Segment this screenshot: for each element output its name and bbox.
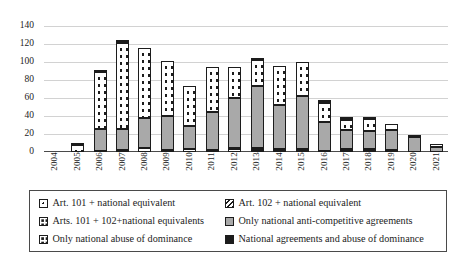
bar-segment xyxy=(116,40,129,43)
legend-item[interactable]: Arts. 101 + 102+national equivalents xyxy=(39,213,204,230)
y-tick-label: 120 xyxy=(20,39,34,49)
bar-slot xyxy=(201,26,223,152)
x-tick-label: 2018 xyxy=(364,152,373,171)
legend-label: Arts. 101 + 102+national equivalents xyxy=(53,216,205,226)
bar-segment xyxy=(206,112,219,151)
y-tick-label: 60 xyxy=(25,93,35,103)
legend-label: National agreements and abuse of dominan… xyxy=(239,234,424,244)
bar-slot xyxy=(111,26,133,152)
y-tick-label: 140 xyxy=(20,21,34,31)
x-tick-label: 2004 xyxy=(50,152,59,171)
bar-segment xyxy=(161,116,174,150)
x-tick-label: 2015 xyxy=(297,152,306,171)
bar-slot xyxy=(224,26,246,152)
legend-item[interactable]: Only national abuse of dominance xyxy=(39,231,192,248)
bar-slot xyxy=(403,26,425,152)
legend-label: Art. 101 + national equivalent xyxy=(53,198,176,208)
legend-label: Only national anti-competitive agreement… xyxy=(239,216,413,226)
bar-slot xyxy=(156,26,178,152)
x-tick-label: 2016 xyxy=(320,152,329,171)
bar-segment xyxy=(116,129,129,151)
x-tick-label: 2005 xyxy=(73,152,82,171)
bar-segment xyxy=(385,130,398,150)
bar-segment xyxy=(138,48,151,118)
bar-slot xyxy=(426,26,448,152)
bar-segment xyxy=(273,105,286,149)
bar-slot xyxy=(179,26,201,152)
x-tick-label: 2014 xyxy=(275,152,284,171)
bar-segment xyxy=(273,66,286,106)
bar-slot xyxy=(89,26,111,152)
legend-swatch-icon xyxy=(39,235,48,244)
bar-slot xyxy=(358,26,380,152)
bar-slot xyxy=(313,26,335,152)
bar-segment xyxy=(318,122,331,151)
bar-segment xyxy=(318,103,331,123)
legend: Art. 101 + national equivalentArt. 102 +… xyxy=(29,190,447,252)
bar-segment xyxy=(228,98,241,148)
bar-segment xyxy=(296,62,309,96)
x-tick-label: 2013 xyxy=(252,152,261,171)
bar-segment xyxy=(363,117,376,119)
bar-segment xyxy=(251,58,264,61)
bar-segment xyxy=(408,137,421,152)
bar-segment xyxy=(318,100,331,102)
bar-segment xyxy=(296,96,309,149)
bar-segment xyxy=(116,43,129,129)
legend-label: Only national abuse of dominance xyxy=(53,234,193,244)
x-tick-label: 2009 xyxy=(162,152,171,171)
x-tick-label: 2007 xyxy=(118,152,127,171)
legend-item[interactable]: Art. 101 + national equivalent xyxy=(39,195,175,212)
x-tick-label: 2021 xyxy=(432,152,441,171)
x-tick-label: 2006 xyxy=(95,152,104,171)
y-tick-label: 0 xyxy=(29,147,34,157)
legend-item[interactable]: Art. 102 + national equivalent xyxy=(225,195,361,212)
bar-slot xyxy=(66,26,88,152)
bar-segment xyxy=(94,72,107,129)
x-tick-label: 2019 xyxy=(387,152,396,171)
y-tick-label: 100 xyxy=(20,57,34,67)
bar-segment xyxy=(94,70,107,72)
bar-segment xyxy=(340,130,353,150)
legend-swatch-icon xyxy=(225,199,234,208)
x-tick-label: 2011 xyxy=(207,152,216,170)
bar-segment xyxy=(430,144,443,146)
legend-swatch-icon xyxy=(225,217,234,226)
x-axis-tick-labels: 2004200520062007200820092010201120122013… xyxy=(44,152,448,186)
bar-slot xyxy=(336,26,358,152)
bar-segment xyxy=(138,118,151,148)
x-tick-label: 2012 xyxy=(230,152,239,171)
bar-slot xyxy=(381,26,403,152)
y-tick-label: 20 xyxy=(25,129,35,139)
y-tick-label: 40 xyxy=(25,111,35,121)
bar-segment xyxy=(228,67,241,99)
bar-slot xyxy=(268,26,290,152)
chart-figure: 020406080100120140 200420052006200720082… xyxy=(0,0,456,267)
bar-slot xyxy=(44,26,66,152)
x-tick-label: 2008 xyxy=(140,152,149,171)
bar-segment xyxy=(408,135,421,137)
bar-slot xyxy=(134,26,156,152)
legend-swatch-icon xyxy=(225,235,234,244)
bar-segment xyxy=(183,86,196,126)
bar-segment xyxy=(183,126,196,149)
legend-item[interactable]: National agreements and abuse of dominan… xyxy=(225,231,424,248)
bar-segment xyxy=(251,86,264,148)
legend-item[interactable]: Only national anti-competitive agreement… xyxy=(225,213,412,230)
x-tick-label: 2017 xyxy=(342,152,351,171)
bar-segment xyxy=(363,119,376,132)
plot-area xyxy=(44,26,448,152)
legend-swatch-icon xyxy=(39,217,48,226)
x-tick-label: 2010 xyxy=(185,152,194,171)
bar-slot xyxy=(246,26,268,152)
x-tick-label: 2020 xyxy=(409,152,418,171)
y-tick-label: 80 xyxy=(25,75,35,85)
bar-slot xyxy=(291,26,313,152)
bar-segment xyxy=(340,120,353,130)
bar-segment xyxy=(385,124,398,130)
bar-segment xyxy=(340,117,353,119)
bar-segment xyxy=(363,131,376,149)
bar-segment xyxy=(251,60,264,86)
y-axis-tick-labels: 020406080100120140 xyxy=(0,26,38,152)
legend-label: Art. 102 + national equivalent xyxy=(239,198,362,208)
